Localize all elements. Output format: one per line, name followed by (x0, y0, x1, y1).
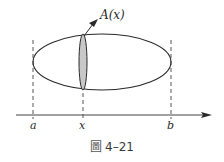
caption-number: 4–21 (105, 140, 134, 154)
label-area-function: A(x) (99, 8, 125, 22)
label-x: x (79, 119, 86, 132)
solid-outline (33, 34, 171, 90)
solid-of-known-cross-section-figure: A(x) a x b 圖4–21 (0, 0, 224, 162)
pointer-arrowhead-icon (89, 19, 98, 27)
figure-caption: 圖4–21 (0, 137, 224, 154)
cross-section-shaded (79, 34, 87, 90)
label-b: b (167, 119, 174, 132)
label-a: a (30, 119, 37, 132)
caption-prefix: 圖 (90, 140, 102, 154)
